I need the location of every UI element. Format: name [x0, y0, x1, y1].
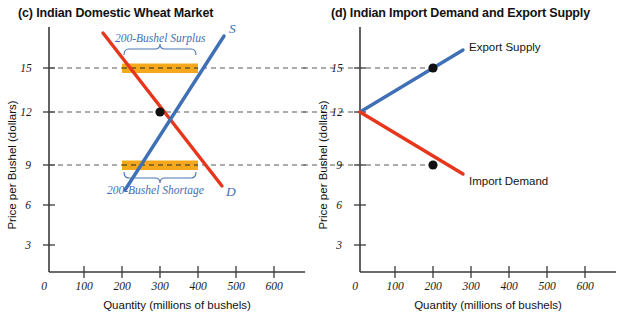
x-label-600-c: 600 [265, 280, 283, 292]
export-supply-label: Export Supply [469, 41, 541, 53]
x-label-200-d: 200 [424, 280, 442, 292]
x-label-300-c: 300 [150, 280, 169, 292]
y-label-9-c: 9 [25, 159, 31, 171]
x-label-500-c: 500 [227, 280, 245, 292]
supply-curve-label-c: S [229, 21, 236, 36]
x-label-200-c: 200 [113, 280, 131, 292]
x-label-0-d: 0 [352, 280, 358, 292]
import-demand-label: Import Demand [469, 175, 548, 187]
x-label-500-d: 500 [538, 280, 556, 292]
y-label-6-c: 6 [25, 199, 31, 211]
import-demand-point [428, 160, 437, 169]
y-label-12-d: 12 [331, 106, 343, 118]
y-label-15-c: 15 [20, 62, 32, 74]
x-label-100-d: 100 [386, 280, 404, 292]
y-label-12-c: 12 [20, 106, 32, 118]
y-label-3-c: 3 [24, 239, 31, 251]
x-label-400-c: 400 [189, 280, 207, 292]
y-label-3-d: 3 [335, 239, 342, 251]
x-label-100-c: 100 [75, 280, 93, 292]
surplus-brace [124, 44, 196, 55]
economics-figure: (c) Indian Domestic Wheat Market [0, 0, 622, 317]
y-label-15-d: 15 [331, 62, 343, 74]
panel-indian-domestic-wheat-market: (c) Indian Domestic Wheat Market [0, 0, 311, 317]
x-label-0-c: 0 [41, 280, 47, 292]
y-axis-title-d: Price per Bushel (dollars) [317, 100, 329, 229]
y-axis-title-c: Price per Bushel (dollars) [6, 100, 18, 229]
y-label-9-d: 9 [336, 159, 342, 171]
x-label-400-d: 400 [500, 280, 518, 292]
equilibrium-point-c [155, 107, 164, 116]
export-supply-point [428, 63, 437, 72]
y-label-6-d: 6 [336, 199, 342, 211]
panel-c-plot: 200-Bushel Surplus 200-Bushel Shortage S… [0, 0, 311, 317]
panel-indian-import-demand-and-export-supply: (d) Indian Import Demand and Export Supp… [311, 0, 622, 317]
x-label-600-d: 600 [576, 280, 594, 292]
panel-d-plot: Export Supply Import Demand 3 6 9 12 15 … [311, 0, 622, 317]
x-axis-title-c: Quantity (millions of bushels) [103, 299, 251, 311]
shortage-annotation: 200-Bushel Shortage [107, 184, 204, 197]
surplus-annotation: 200-Bushel Surplus [115, 32, 206, 45]
x-axis-title-d: Quantity (millions of bushels) [414, 299, 562, 311]
demand-curve-label-c: D [225, 184, 236, 199]
export-supply-curve [360, 50, 463, 112]
x-label-300-d: 300 [461, 280, 480, 292]
